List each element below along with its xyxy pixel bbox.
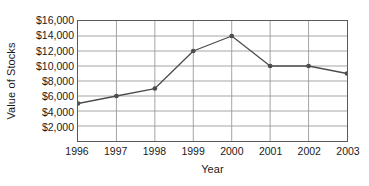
x-axis-tick-label: 2002 [287,145,331,158]
data-point-marker [306,64,311,69]
x-axis-title: Year [77,163,348,175]
data-series-value-of-stocks [78,21,347,141]
y-axis-tick-label: $6,000 [18,91,74,102]
data-point-marker [268,64,273,69]
y-axis-tick-label: $8,000 [18,76,74,87]
y-axis-tick-label: $16,000 [18,15,74,26]
x-axis-tick-label: 1997 [94,145,138,158]
x-axis-tick-label: 2003 [326,145,369,158]
data-point-marker [229,34,234,39]
x-axis-tick-label: 2001 [249,145,293,158]
x-axis-tick-label: 1998 [132,145,176,158]
plot-area [77,20,348,142]
data-point-marker [152,86,157,91]
x-axis-tick-label: 2000 [210,145,254,158]
x-axis-tick-label: 1996 [55,145,99,158]
y-axis-tick-label: $14,000 [18,30,74,41]
y-axis-tick-label: $4,000 [18,106,74,117]
line-chart: Value of Stocks $2,000$4,000$6,000$8,000… [0,0,369,186]
data-point-marker [78,101,80,106]
y-axis-tick-label: $2,000 [18,121,74,132]
series-line [78,36,347,104]
y-axis-tick-label: $12,000 [18,45,74,56]
x-axis-tick-labels: 19961997199819992000200120022003 [77,145,348,159]
data-point-marker [345,71,347,76]
data-point-marker [191,49,196,54]
y-axis-tick-label: $10,000 [18,60,74,71]
x-axis-tick-label: 1999 [171,145,215,158]
data-point-marker [114,94,119,99]
y-axis-tick-labels: $2,000$4,000$6,000$8,000$10,000$12,000$1… [18,20,74,142]
